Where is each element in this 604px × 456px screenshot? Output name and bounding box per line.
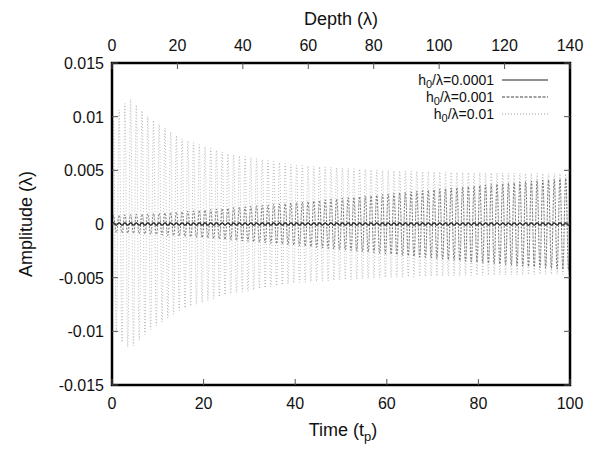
svg-text:h0/λ=0.0001: h0/λ=0.0001 [418, 72, 494, 90]
x2-tick-label: 40 [234, 37, 252, 54]
chart-canvas: 0204060801000204060801001201400.0150.010… [0, 0, 604, 456]
legend: h0/λ=0.0001h0/λ=0.001h0/λ=0.01 [418, 72, 548, 124]
x2-axis-title: Depth (λ) [304, 9, 378, 29]
data-traces [112, 99, 570, 347]
x2-tick-label: 60 [299, 37, 317, 54]
x2-tick-label: 0 [108, 37, 117, 54]
x-tick-label: 40 [286, 395, 304, 412]
y-tick-label: -0.01 [68, 323, 105, 340]
x-tick-label: 0 [108, 395, 117, 412]
svg-text:h0/λ=0.01: h0/λ=0.01 [434, 106, 494, 124]
y-tick-label: 0.005 [64, 162, 104, 179]
x2-tick-label: 140 [557, 37, 584, 54]
x-tick-label: 20 [195, 395, 213, 412]
series-trace-0 [112, 223, 570, 225]
x2-tick-label: 120 [491, 37, 518, 54]
y-tick-label: -0.005 [59, 270, 104, 287]
legend-item: h0/λ=0.01 [434, 106, 548, 124]
x-tick-label: 60 [378, 395, 396, 412]
y-tick-label: 0.01 [73, 109, 104, 126]
y-tick-label: 0.015 [64, 55, 104, 72]
x-tick-label: 100 [557, 395, 584, 412]
x2-tick-label: 20 [169, 37, 187, 54]
svg-text:h0/λ=0.001: h0/λ=0.001 [426, 89, 494, 107]
x2-tick-label: 80 [365, 37, 383, 54]
y-tick-label: -0.015 [59, 377, 104, 394]
legend-item: h0/λ=0.001 [426, 89, 548, 107]
y-tick-label: 0 [95, 216, 104, 233]
y-axis-title: Amplitude (λ) [16, 171, 36, 277]
x-tick-label: 80 [470, 395, 488, 412]
x-axis-title: Time (tp) [309, 420, 378, 444]
legend-item: h0/λ=0.0001 [418, 72, 548, 90]
x2-tick-label: 100 [426, 37, 453, 54]
